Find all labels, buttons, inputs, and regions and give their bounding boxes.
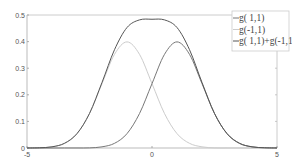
y-tick-label: 0.2 [15,91,25,98]
x-tick-label: -5 [24,151,30,158]
x-tick-label: 0 [150,151,154,158]
y-tick-label: 0.1 [15,118,25,125]
legend-label: g(-1,1) [239,25,265,36]
legend: g( 1,1)g(-1,1)g( 1,1)+g(-1,1) [232,11,292,51]
series-line-0 [27,42,277,148]
series-line-1 [27,42,277,148]
y-tick-label: 0.4 [15,38,25,45]
legend-label: g( 1,1) [239,13,264,24]
y-tick-label: 0.3 [15,65,25,72]
y-tick-label: 0.5 [15,12,25,19]
x-tick-label: 5 [275,151,279,158]
legend-label: g( 1,1)+g(-1,1) [239,36,292,47]
line-chart: 00.10.20.30.40.5 -505 g( 1,1)g(-1,1)g( 1… [0,0,292,165]
